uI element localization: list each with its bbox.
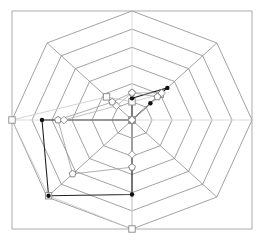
square-marker — [103, 94, 109, 100]
dot-marker — [40, 118, 44, 122]
radar-chart-svg — [0, 0, 261, 240]
square-marker — [129, 226, 135, 232]
dot-marker — [46, 194, 50, 198]
dot-marker — [165, 86, 169, 90]
dot-marker — [130, 192, 134, 196]
radar-chart — [0, 0, 261, 240]
dot-marker — [148, 101, 152, 105]
square-marker — [9, 117, 15, 123]
